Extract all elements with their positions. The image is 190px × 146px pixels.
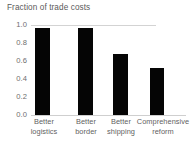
bar-comprehensive-reform[interactable] (150, 68, 164, 115)
bar-better-shipping[interactable] (113, 54, 128, 115)
plot-area (31, 25, 186, 115)
y-tick-label: 0.2 (5, 93, 27, 101)
y-tick-label: 1.0 (5, 21, 27, 29)
x-axis-line (31, 115, 186, 116)
bar-chart: Fraction of trade costs 1.0 0.8 0.6 0.4 … (0, 0, 190, 146)
y-tick-label: 0.8 (5, 39, 27, 47)
x-tick-label-comprehensive-reform: Comprehensive reform (135, 117, 190, 137)
x-tick-line-2: reform (135, 127, 190, 137)
bar-better-logistics[interactable] (35, 28, 50, 115)
chart-title: Fraction of trade costs (7, 3, 90, 12)
x-tick-line-1: Comprehensive (135, 117, 190, 127)
x-axis: Better logistics Better border Better sh… (31, 117, 190, 146)
bar-better-border[interactable] (78, 28, 93, 115)
y-tick-label: 0.6 (5, 57, 27, 65)
gridline-top (31, 25, 156, 26)
y-axis: 1.0 0.8 0.6 0.4 0.2 0.0 (5, 25, 27, 115)
y-tick-label: 0.4 (5, 75, 27, 83)
